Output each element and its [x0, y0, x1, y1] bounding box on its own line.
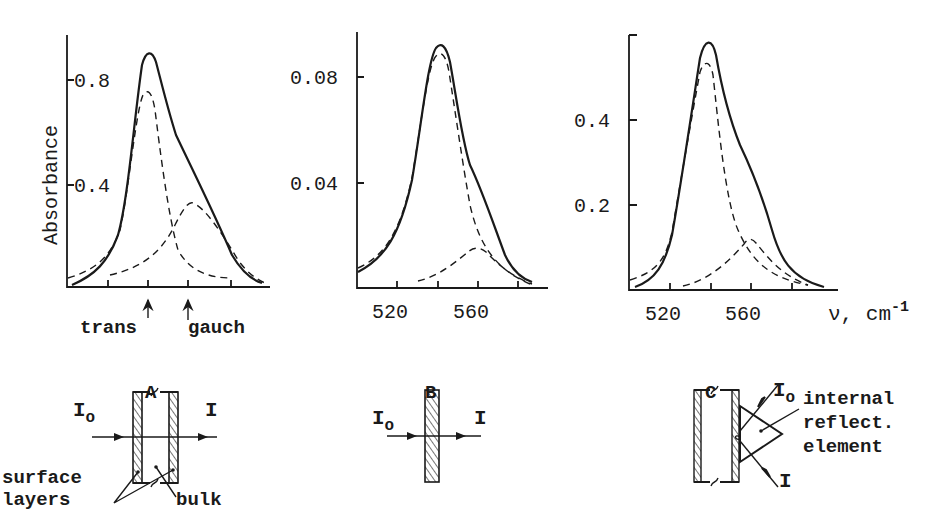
y-ticks-c [629, 35, 637, 205]
diagram-b-transmitted: I [474, 407, 487, 430]
ytick-b-0.08: 0.08 [290, 67, 338, 90]
figure: 0.8 0.4 Absorbance trans gauch 0.08 0.04… [0, 0, 939, 530]
ytick-a-0.4: 0.4 [74, 175, 110, 198]
diagram-c-incident: Io [773, 379, 795, 407]
ytick-c-0.2: 0.2 [574, 195, 610, 218]
label-internal: internal [803, 388, 894, 410]
chart-panel-a: 0.8 0.4 Absorbance trans gauch [40, 35, 270, 339]
gauche-component-curve-c [683, 239, 808, 286]
y-axis-label: Absorbance [40, 125, 63, 245]
sample-layer-left [694, 390, 701, 482]
diagram-a-transmitted: I [205, 399, 218, 422]
trans-label: trans [80, 317, 137, 339]
internal-reflection-element [740, 406, 782, 462]
diagram-b: B Io I [372, 382, 487, 482]
ytick-a-0.8: 0.8 [74, 70, 110, 93]
trans-component-curve-c [630, 63, 808, 285]
y-ticks-a [67, 80, 74, 185]
gauche-component-curve-b [418, 248, 532, 284]
beam-arrow-icon [762, 468, 770, 477]
x-ticks-a [108, 280, 231, 287]
label-bulk: bulk [176, 489, 222, 511]
label-reflect: reflect. [803, 412, 894, 434]
ytick-c-0.4: 0.4 [574, 110, 610, 133]
label-surface: surface [2, 467, 82, 489]
diagram-c: C Io I internal reflect. element [694, 379, 894, 493]
leader-lines-a [114, 467, 176, 503]
diagram-b-incident: Io [372, 407, 394, 435]
x-axis-label: ν, cm-1 [828, 299, 909, 326]
diagram-c-transmitted: I [779, 470, 792, 493]
observed-curve-b [358, 45, 532, 282]
xtick-b-560: 560 [453, 301, 489, 324]
chart-panel-c: 0.4 0.2 520 560 ν, cm-1 [574, 35, 909, 326]
gauche-component-curve-a [110, 203, 265, 283]
diagram-a: A Io I surface layers bulk [2, 382, 222, 511]
diagram-a-title: A [145, 382, 157, 404]
observed-curve-c [635, 43, 824, 287]
diagram-a-incident: Io [73, 399, 95, 427]
xtick-c-520: 520 [645, 303, 681, 326]
label-element: element [803, 436, 883, 458]
y-ticks-b [357, 77, 364, 183]
x-ticks-b [397, 281, 518, 288]
label-layers: layers [2, 489, 70, 511]
ytick-b-0.04: 0.04 [290, 173, 338, 196]
leader-line-c [761, 409, 799, 431]
gauche-label: gauch [188, 317, 245, 339]
chart-panel-b: 0.08 0.04 520 560 [290, 32, 548, 324]
axes-c [629, 35, 838, 290]
reflected-beam-c [740, 441, 778, 487]
xtick-c-560: 560 [725, 303, 761, 326]
xtick-b-520: 520 [372, 301, 408, 324]
